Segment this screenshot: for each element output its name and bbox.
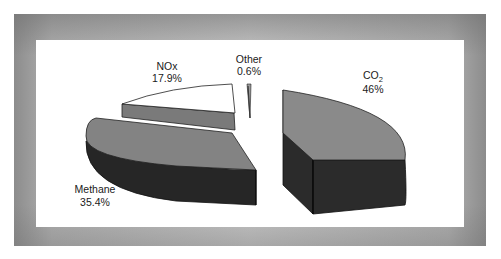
label-co2: CO2 — [363, 69, 383, 84]
label-methane: Methane — [75, 183, 116, 195]
value-other: 0.6% — [237, 65, 261, 77]
slice-co2 — [283, 90, 406, 214]
pie-chart: CO2 46% Methane 35.4% NOx 17.9% Other 0.… — [0, 0, 501, 259]
value-co2: 46% — [362, 83, 383, 95]
label-nox: NOx — [157, 60, 179, 72]
value-methane: 35.4% — [80, 196, 110, 208]
label-other: Other — [236, 53, 263, 65]
value-nox: 17.9% — [152, 72, 182, 84]
slice-other — [247, 84, 251, 118]
